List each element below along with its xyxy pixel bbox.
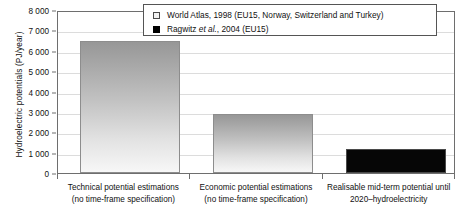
y-axis-tick-mark [52, 112, 56, 113]
y-axis-tick-label: 7 000 [29, 27, 50, 36]
x-axis-tick-mark [322, 174, 323, 179]
legend-label: World Atlas, 1998 (EU15, Norway, Switzer… [167, 10, 383, 20]
y-axis-tick-label: 6 000 [29, 47, 50, 56]
x-axis-tick-mark [57, 174, 58, 179]
x-axis-category-label: Technical potential estimations (no time… [57, 182, 190, 214]
bar-chart: Hydroelectric potentials (PJ/year) 8 000… [0, 0, 468, 216]
x-axis-category-line2: 2020–hydroelectricity [323, 194, 454, 206]
y-axis-tick-label: 1 000 [29, 149, 50, 158]
legend-label-text: World Atlas, 1998 (EU15, Norway, Switzer… [167, 10, 383, 20]
x-axis-category-line2: (no time-frame specification) [58, 194, 189, 206]
y-axis-tick-mark [52, 11, 56, 12]
x-axis-tick-mark [454, 174, 455, 179]
y-axis-tick-label: 0 [44, 170, 49, 179]
y-axis-tick-label: 3 000 [29, 108, 50, 117]
y-axis-tick-mark [52, 133, 56, 134]
bar-economic-potential [213, 114, 313, 173]
x-axis-ticks [57, 174, 455, 180]
y-axis-tick-mark [52, 51, 56, 52]
bar-series [58, 12, 454, 173]
y-axis-tick-label: 8 000 [29, 7, 50, 16]
y-axis-tick-label: 4 000 [29, 88, 50, 97]
x-axis-labels: Technical potential estimations (no time… [57, 182, 455, 214]
legend-entry-world-atlas: World Atlas, 1998 (EU15, Norway, Switzer… [153, 9, 436, 21]
legend-label: Ragwitz et al., 2004 (EU15) [167, 24, 268, 34]
bar-technical-potential [80, 41, 180, 173]
x-axis-category-line1: Technical potential estimations [68, 183, 179, 192]
bar-realisable-potential [346, 149, 446, 174]
legend-label-text-post: , 2004 (EU15) [217, 24, 269, 34]
y-axis-tick-mark [52, 92, 56, 93]
y-axis-tick-mark [52, 174, 56, 175]
y-axis-tick-mark [52, 153, 56, 154]
x-axis-category-label: Realisable mid-term potential until 2020… [322, 182, 455, 214]
legend-label-italic: et al. [199, 24, 217, 34]
x-axis-category-line1: Realisable mid-term potential until [327, 183, 450, 192]
y-axis-tick-mark [52, 72, 56, 73]
x-axis-category-label: Economic potential estimations (no time-… [190, 182, 323, 214]
legend-entry-ragwitz: Ragwitz et al., 2004 (EU15) [153, 23, 436, 35]
legend-swatch-grey-square-icon [153, 12, 160, 19]
y-axis-labels: 8 000 7 000 6 000 5 000 4 000 3 000 2 00… [0, 0, 57, 175]
legend-label-text-pre: Ragwitz [167, 24, 199, 34]
y-axis-tick-label: 5 000 [29, 68, 50, 77]
x-axis-category-line2: (no time-frame specification) [191, 194, 322, 206]
legend-swatch-black-square-icon [153, 26, 160, 33]
legend: World Atlas, 1998 (EU15, Norway, Switzer… [143, 4, 437, 36]
y-axis-tick-label: 2 000 [29, 129, 50, 138]
y-axis-tick-mark [52, 31, 56, 32]
x-axis-category-line1: Economic potential estimations [200, 183, 313, 192]
x-axis-tick-mark [189, 174, 190, 179]
